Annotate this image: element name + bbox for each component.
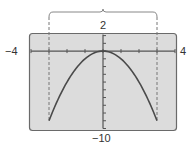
xmax-label: 4	[180, 46, 186, 57]
xmin-label: −4	[5, 46, 18, 57]
ymin-label: −10	[92, 133, 111, 144]
domain-brace	[49, 9, 157, 17]
ymax-label: 2	[100, 20, 106, 31]
graph-canvas	[0, 0, 194, 146]
